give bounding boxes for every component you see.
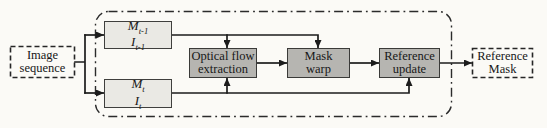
node-reference-update: Reference update [379,48,440,78]
var-subscript: t [139,100,141,110]
node-frame-cur: Mt It [104,79,172,108]
image-sequence-label-line1: Image [27,49,58,63]
mask-warp-label-line2: warp [306,63,331,77]
frame-cur-mask-symbol: Mt [131,77,144,93]
reference-update-label-line2: update [393,63,426,77]
connectors-layer [0,0,547,128]
var-symbol: M [131,76,142,91]
var-subscript: t-1 [135,42,144,52]
reference-mask-label-line1: Reference [477,50,528,64]
arrow-frame-prev-to-mask-warp [172,35,318,48]
mask-warp-label-line1: Mask [305,50,333,64]
frame-cur-image-symbol: It [135,94,142,110]
pipeline-diagram: Image sequence Mt-1 It-1 Mt It Optical f… [0,0,547,128]
node-image-sequence: Image sequence [10,46,75,78]
var-subscript: t [142,84,144,94]
node-frame-prev: Mt-1 It-1 [104,21,172,49]
image-sequence-label-line2: sequence [20,62,66,76]
arrow-frame-cur-to-reference-update [172,78,409,93]
var-symbol: M [128,18,139,33]
reference-mask-label-line2: Mask [489,63,517,77]
node-mask-warp: Mask warp [287,48,350,78]
node-optical-flow: Optical flow extraction [189,48,257,78]
optical-flow-label-line2: extraction [198,63,248,77]
optical-flow-label-line1: Optical flow [192,50,255,64]
frame-prev-mask-symbol: Mt-1 [128,19,148,35]
var-subscript: t-1 [139,26,148,36]
frame-prev-image-symbol: It-1 [131,35,145,51]
node-reference-mask: Reference Mask [472,48,533,78]
reference-update-label-line1: Reference [384,50,435,64]
branch-wire [75,35,85,93]
